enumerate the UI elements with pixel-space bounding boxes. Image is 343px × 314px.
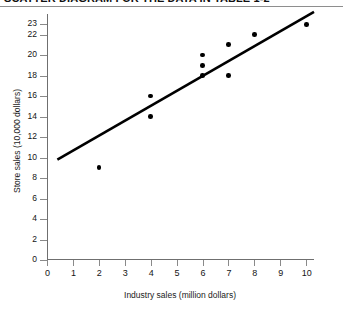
regression-line bbox=[47, 14, 314, 260]
header-divider bbox=[0, 6, 343, 7]
data-point bbox=[200, 73, 205, 78]
x-tick: 10 bbox=[306, 260, 307, 266]
data-point bbox=[200, 63, 205, 68]
x-tick-label: 1 bbox=[71, 268, 76, 278]
y-tick-label: 2 bbox=[32, 234, 37, 244]
y-tick: 16 bbox=[40, 96, 47, 97]
y-tick: 23 bbox=[40, 24, 47, 25]
x-tick: 6 bbox=[203, 260, 204, 266]
y-tick: 22 bbox=[40, 35, 47, 36]
y-tick-label: 8 bbox=[32, 172, 37, 182]
data-point bbox=[148, 94, 153, 99]
y-tick: 14 bbox=[40, 117, 47, 118]
plot-area: 024681012141618202223 012345678910 bbox=[47, 14, 314, 260]
x-tick: 9 bbox=[280, 260, 281, 266]
y-tick-label: 10 bbox=[28, 152, 37, 162]
y-tick: 12 bbox=[40, 137, 47, 138]
x-tick-label: 9 bbox=[278, 268, 283, 278]
y-tick: 0 bbox=[40, 260, 47, 261]
data-point bbox=[200, 53, 205, 58]
x-tick: 8 bbox=[254, 260, 255, 266]
x-tick-label: 3 bbox=[123, 268, 128, 278]
data-point bbox=[226, 73, 231, 78]
y-tick-label: 0 bbox=[32, 254, 37, 264]
x-tick-label: 0 bbox=[45, 268, 50, 278]
y-tick-label: 16 bbox=[28, 90, 37, 100]
x-tick-label: 2 bbox=[97, 268, 102, 278]
x-tick: 5 bbox=[177, 260, 178, 266]
data-point bbox=[226, 42, 231, 47]
y-tick: 2 bbox=[40, 240, 47, 241]
y-tick-label: 18 bbox=[28, 70, 37, 80]
y-tick: 18 bbox=[40, 76, 47, 77]
x-tick: 7 bbox=[228, 260, 229, 266]
data-point bbox=[252, 32, 257, 37]
x-tick-label: 8 bbox=[252, 268, 257, 278]
y-tick-label: 14 bbox=[28, 111, 37, 121]
y-axis-title: Store sales (10,000 dollars) bbox=[12, 61, 22, 221]
page-header-strip: SCATTER DIAGRAM FOR THE DATA IN TABLE 1-… bbox=[0, 0, 343, 7]
y-tick-label: 4 bbox=[32, 213, 37, 223]
y-tick: 8 bbox=[40, 178, 47, 179]
y-tick-label: 22 bbox=[28, 29, 37, 39]
data-point bbox=[97, 165, 102, 170]
y-tick: 10 bbox=[40, 158, 47, 159]
x-tick-label: 6 bbox=[201, 268, 206, 278]
y-tick: 6 bbox=[40, 199, 47, 200]
page-header-caption: SCATTER DIAGRAM FOR THE DATA IN TABLE 1-… bbox=[4, 0, 270, 4]
x-tick: 3 bbox=[125, 260, 126, 266]
x-tick: 0 bbox=[47, 260, 48, 266]
x-tick-label: 7 bbox=[226, 268, 231, 278]
x-axis-title: Industry sales (million dollars) bbox=[47, 290, 313, 300]
x-tick: 4 bbox=[151, 260, 152, 266]
x-tick-label: 10 bbox=[302, 268, 312, 278]
x-tick-label: 5 bbox=[175, 268, 180, 278]
x-tick-label: 4 bbox=[149, 268, 154, 278]
y-tick-label: 23 bbox=[28, 18, 37, 28]
data-point bbox=[304, 22, 309, 27]
scatter-chart-figure: Store sales (10,000 dollars) Industry sa… bbox=[0, 8, 343, 314]
x-tick: 2 bbox=[99, 260, 100, 266]
y-tick-label: 20 bbox=[28, 49, 37, 59]
data-point bbox=[148, 114, 153, 119]
y-tick: 20 bbox=[40, 55, 47, 56]
y-tick-label: 12 bbox=[28, 131, 37, 141]
x-tick: 1 bbox=[73, 260, 74, 266]
y-tick: 4 bbox=[40, 219, 47, 220]
y-tick-label: 6 bbox=[32, 193, 37, 203]
